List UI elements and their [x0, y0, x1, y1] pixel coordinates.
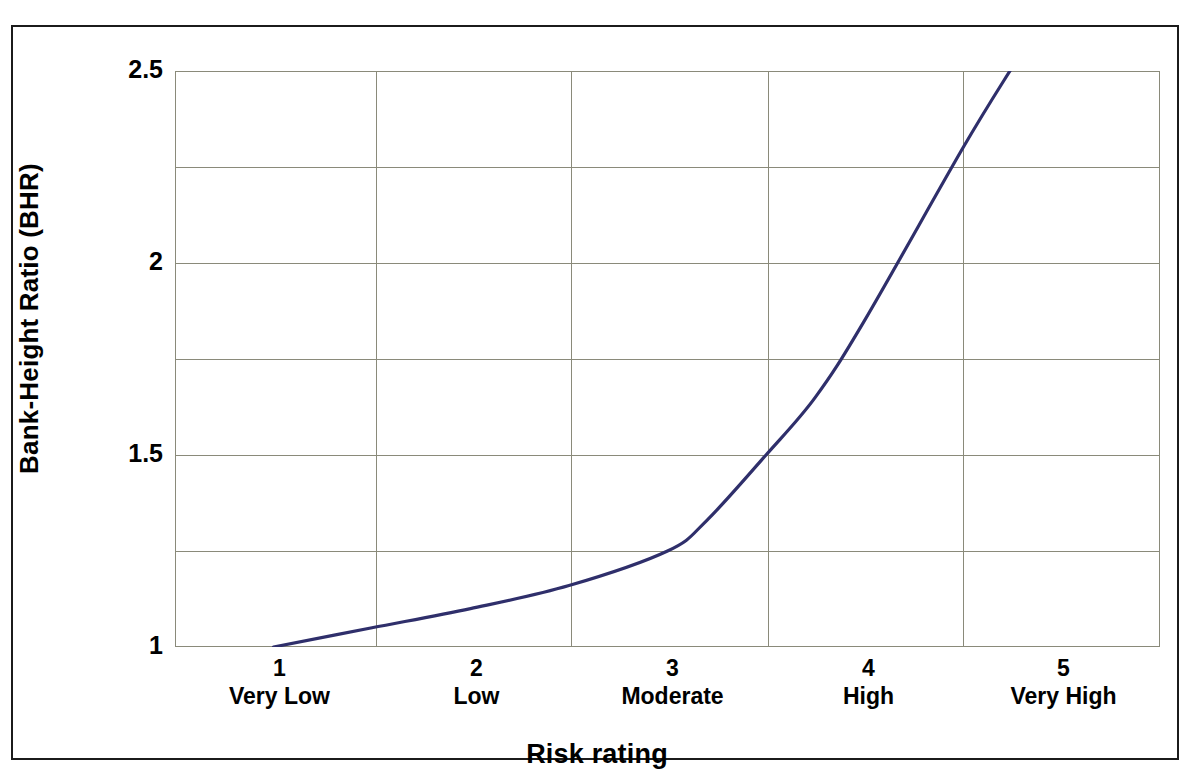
y-tick-label-2-5: 2.5 — [93, 57, 163, 82]
x-tick-name-2: Low — [378, 681, 575, 712]
x-tick-group-3: 3 Moderate — [574, 655, 771, 712]
chart-canvas — [175, 71, 1160, 647]
plot-area — [175, 71, 1160, 647]
x-tick-group-4: 4 High — [770, 655, 967, 712]
x-tick-group-2: 2 Low — [378, 655, 575, 712]
horizontal-gridlines — [175, 72, 1160, 647]
y-tick-label-2: 2 — [93, 249, 163, 274]
x-tick-group-5: 5 Very High — [965, 655, 1162, 712]
chart-figure: Bank-Height Ratio (BHR) 2.521.51 — [0, 0, 1197, 781]
x-axis-tick-labels: 1 Very Low 2 Low 3 Moderate 4 High 5 Ver… — [175, 655, 1160, 735]
x-axis-title: Risk rating — [13, 739, 1181, 770]
y-axis-title: Bank-Height Ratio (BHR) — [14, 9, 45, 629]
x-tick-name-3: Moderate — [574, 681, 771, 712]
y-axis-tick-labels: 2.521.51 — [93, 71, 163, 647]
y-tick-label-1-5: 1.5 — [93, 441, 163, 466]
x-tick-group-1: 1 Very Low — [181, 655, 378, 712]
x-tick-number-2: 2 — [378, 655, 575, 681]
x-tick-name-4: High — [770, 681, 967, 712]
x-tick-number-3: 3 — [574, 655, 771, 681]
x-tick-name-1: Very Low — [181, 681, 378, 712]
y-tick-label-1: 1 — [93, 633, 163, 658]
x-tick-number-1: 1 — [181, 655, 378, 681]
x-tick-number-5: 5 — [965, 655, 1162, 681]
x-tick-number-4: 4 — [770, 655, 967, 681]
figure-border: Bank-Height Ratio (BHR) 2.521.51 — [11, 25, 1179, 760]
x-tick-name-5: Very High — [965, 681, 1162, 712]
